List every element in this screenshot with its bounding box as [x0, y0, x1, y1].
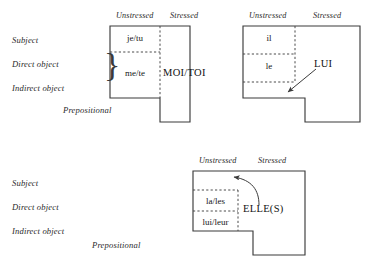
diagram-3-cell-la-les: la/les: [193, 196, 238, 206]
row-label-prepositional-3: Prepositional: [92, 240, 140, 250]
row-label-prepositional-1: Prepositional: [63, 105, 111, 115]
row-label-subject-1: Subject: [12, 35, 38, 45]
diagram-1-stressed-moi-toi: MOI/TOI: [163, 67, 206, 78]
diagram-2-column-header-unstressed: Unstressed: [249, 11, 287, 20]
diagram-1-brace: }: [104, 48, 120, 82]
diagram-2-cell-il: il: [243, 33, 295, 43]
row-label-direct-object-1: Direct object: [12, 59, 59, 69]
diagram-3-stressed-elles: ELLE(S): [243, 203, 284, 214]
row-label-subject-3: Subject: [12, 178, 38, 188]
row-label-indirect-object-1: Indirect object: [12, 83, 64, 93]
diagram-1-column-header-unstressed: Unstressed: [116, 11, 154, 20]
row-label-direct-object-3: Direct object: [12, 202, 59, 212]
diagram-2-column-header-stressed: Stressed: [313, 11, 341, 20]
diagram-3-cell-lui-leur: lui/leur: [193, 217, 238, 227]
diagram-2-cell-le: le: [243, 61, 295, 71]
diagram-1-column-header-stressed: Stressed: [170, 11, 198, 20]
diagram-1-cell-je-tu: je/tu: [110, 33, 160, 43]
diagram-lines: [0, 0, 375, 262]
pronoun-grid-figure: Unstressed Stressed Subject Direct objec…: [0, 0, 375, 262]
diagram-3-column-header-unstressed: Unstressed: [199, 156, 237, 165]
diagram-3-column-header-stressed: Stressed: [258, 156, 286, 165]
row-label-indirect-object-3: Indirect object: [12, 226, 64, 236]
diagram-2-stressed-lui: LUI: [314, 58, 332, 69]
